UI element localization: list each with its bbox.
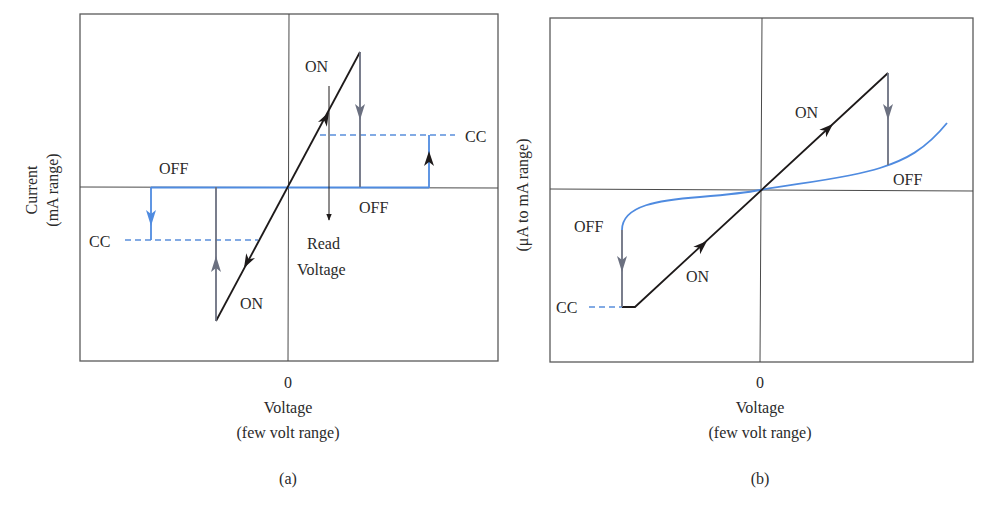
label-on-bottom-a: ON: [240, 295, 264, 312]
y-axis-label-a-line1: Current: [23, 165, 40, 214]
panel-b: ON ON OFF OFF CC (μA to mA range) 0 Volt…: [514, 18, 973, 488]
x-zero-tick-b: 0: [756, 374, 764, 391]
label-on-bottom-b: ON: [686, 268, 710, 285]
label-on-top-a: ON: [305, 58, 329, 75]
panel-a: ON ON OFF OFF CC CC Read Voltage Current…: [23, 14, 498, 488]
caption-b: (b): [751, 470, 770, 488]
down-left-arrow-icon: [240, 253, 255, 270]
x-axis-label-b-line2: (few volt range): [708, 424, 811, 442]
y-axis-label-b: (μA to mA range): [514, 139, 532, 252]
x-axis-label-a-line2: (few volt range): [236, 424, 339, 442]
x-axis-label-a-line1: Voltage: [264, 399, 313, 417]
label-cc-right-a: CC: [465, 128, 486, 145]
label-off-right-b: OFF: [893, 171, 922, 188]
label-cc-b: CC: [556, 299, 577, 316]
up-right-arrow-icon: [318, 110, 333, 127]
label-read-a: Read: [307, 235, 340, 252]
figure: ON ON OFF OFF CC CC Read Voltage Current…: [0, 0, 981, 517]
label-voltage-a: Voltage: [297, 261, 346, 279]
label-cc-left-a: CC: [89, 233, 110, 250]
label-off-left-a: OFF: [159, 160, 188, 177]
label-off-left-b: OFF: [574, 218, 603, 235]
caption-a: (a): [279, 470, 297, 488]
label-off-right-a: OFF: [359, 199, 388, 216]
y-axis-label-a-line2: (mA range): [44, 153, 62, 226]
label-on-top-b: ON: [795, 104, 819, 121]
x-zero-tick-a: 0: [284, 374, 292, 391]
x-axis-label-b-line1: Voltage: [736, 399, 785, 417]
